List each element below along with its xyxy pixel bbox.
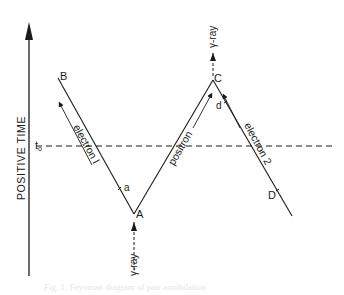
electron-2-line bbox=[213, 80, 292, 216]
point-c-label: C bbox=[214, 72, 222, 84]
tick-label-a: a bbox=[124, 182, 130, 193]
axis-label: POSITIVE TIME bbox=[15, 116, 27, 200]
feynman-diagram: POSITIVE TIME to electron l a positron e… bbox=[0, 0, 344, 295]
axis-arrow-icon bbox=[25, 22, 33, 40]
gamma-in-arrow-icon bbox=[131, 222, 137, 231]
positron-label: positron bbox=[165, 129, 194, 167]
tick-label-d: d bbox=[216, 100, 222, 111]
point-a-label: A bbox=[136, 208, 144, 220]
electron-2-label: electron 2 bbox=[242, 120, 274, 166]
positron-arrow-icon bbox=[193, 95, 211, 128]
gamma-out-arrow-icon bbox=[210, 53, 216, 61]
gamma-ray-in-label: γ-ray bbox=[128, 254, 139, 276]
point-b-label: B bbox=[60, 70, 67, 82]
figure-caption: Fig. 1. Feynman diagram of pair annihila… bbox=[44, 282, 206, 292]
point-d-label: D bbox=[268, 189, 276, 201]
gamma-ray-out-label: γ-ray bbox=[207, 26, 218, 48]
